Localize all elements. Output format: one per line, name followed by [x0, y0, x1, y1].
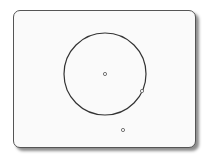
- diagram-canvas: [0, 0, 212, 160]
- point-outside: [121, 128, 124, 131]
- center-point: [103, 72, 106, 75]
- point-on-circle: [140, 89, 143, 92]
- points-layer: [103, 72, 143, 131]
- circle-figure: [0, 0, 212, 160]
